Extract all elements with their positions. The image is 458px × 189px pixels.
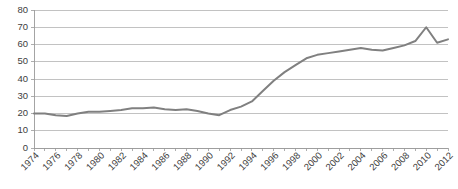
x-tick-label-1982: 1982 xyxy=(105,150,128,173)
x-tick-label-1976: 1976 xyxy=(40,150,63,173)
y-tick-label-40: 40 xyxy=(17,73,28,84)
x-tick-label-1978: 1978 xyxy=(62,150,85,173)
x-tick-label-2002: 2002 xyxy=(323,150,346,173)
x-tick-label-1988: 1988 xyxy=(171,150,194,173)
x-tick-label-2012: 2012 xyxy=(432,150,455,173)
y-tick-label-0: 0 xyxy=(23,142,28,153)
chart-plot-area: 0102030405060708019741976197819801982198… xyxy=(0,0,458,189)
x-tick-label-2006: 2006 xyxy=(367,150,390,173)
x-tick-label-1996: 1996 xyxy=(258,150,281,173)
x-tick-label-1992: 1992 xyxy=(214,150,237,173)
y-axis-labels: 01020304050607080 xyxy=(17,4,34,153)
y-tick-label-70: 70 xyxy=(17,21,28,32)
line-chart: 0102030405060708019741976197819801982198… xyxy=(0,0,458,189)
data-series-line xyxy=(34,27,448,116)
gridlines xyxy=(34,10,448,148)
x-tick-label-1980: 1980 xyxy=(84,150,107,173)
y-tick-label-50: 50 xyxy=(17,55,28,66)
y-tick-label-60: 60 xyxy=(17,38,28,49)
x-tick-label-1994: 1994 xyxy=(236,150,259,173)
x-tick-label-1998: 1998 xyxy=(280,150,303,173)
x-tick-label-1974: 1974 xyxy=(18,150,41,173)
x-tick-label-2004: 2004 xyxy=(345,150,368,173)
x-axis-labels: 1974197619781980198219841986198819901992… xyxy=(18,150,455,173)
y-tick-label-10: 10 xyxy=(17,124,28,135)
x-tick-label-2010: 2010 xyxy=(410,150,433,173)
y-tick-label-30: 30 xyxy=(17,90,28,101)
y-tick-label-80: 80 xyxy=(17,4,28,15)
x-tick-label-2008: 2008 xyxy=(389,150,412,173)
x-tick-label-1990: 1990 xyxy=(193,150,216,173)
x-tick-label-1986: 1986 xyxy=(149,150,172,173)
x-tick-label-1984: 1984 xyxy=(127,150,150,173)
y-tick-label-20: 20 xyxy=(17,107,28,118)
x-tick-label-2000: 2000 xyxy=(301,150,324,173)
